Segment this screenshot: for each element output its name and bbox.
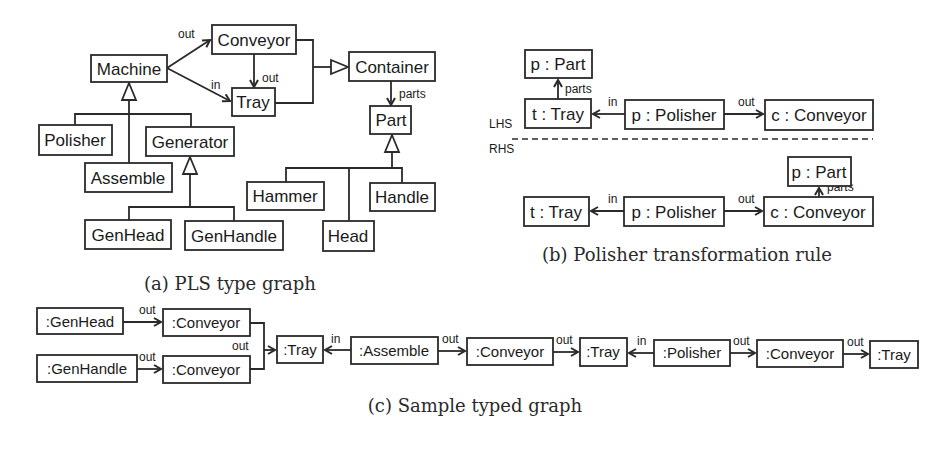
node-tray-instance[interactable]: :Tray [870, 341, 918, 368]
node-label: t : Tray [530, 203, 582, 222]
node-label: Assemble [91, 169, 166, 188]
node-genhandle-instance[interactable]: :GenHandle [37, 355, 137, 382]
inheritance-arrow-part [385, 135, 399, 152]
node-label: :GenHead [46, 313, 114, 330]
inheritance-branch-generator [129, 207, 234, 221]
edge-label-out: out [232, 339, 249, 353]
node-tray[interactable]: Tray [232, 88, 275, 116]
inheritance-branch-part [286, 168, 402, 183]
node-conveyor-instance[interactable]: :Conveyor [163, 356, 250, 383]
panel-c-sample-graph: out out out in out out in out out :GenHe… [37, 303, 918, 416]
edge-label-in: in [211, 78, 220, 92]
edge-label-out: out [738, 95, 755, 109]
edge-label-out: out [178, 27, 195, 41]
node-label: :Tray [586, 343, 620, 360]
lhs-node-part[interactable]: p : Part [525, 50, 592, 78]
panel-b-transformation-rule: parts in out p : Part t : Tray p : Polis… [489, 50, 873, 265]
edge-label-parts: parts [565, 82, 592, 96]
panel-a-type-graph: out in out parts Conveyor Machine Tray C… [39, 25, 435, 294]
lhs-node-tray[interactable]: t : Tray [525, 99, 591, 128]
node-label: c : Conveyor [771, 106, 867, 125]
edge-label-in: in [608, 192, 617, 206]
node-label: Part [375, 111, 406, 130]
node-label: Tray [236, 93, 270, 112]
edge-label-out: out [847, 335, 864, 349]
node-container[interactable]: Container [349, 52, 435, 81]
inheritance-arrow-generator [183, 157, 197, 174]
node-label: p : Polisher [631, 203, 716, 222]
edge-label-out: out [139, 350, 156, 364]
rhs-node-polisher[interactable]: p : Polisher [624, 197, 724, 226]
inheritance-arrow-machine [122, 83, 136, 100]
node-polisher[interactable]: Polisher [39, 125, 112, 155]
node-label: Head [328, 227, 369, 246]
rhs-label: RHS [489, 142, 514, 156]
node-assemble[interactable]: Assemble [85, 163, 172, 192]
caption-a: (a) PLS type graph [144, 273, 316, 294]
node-label: :Conveyor [766, 345, 834, 362]
lhs-node-conveyor[interactable]: c : Conveyor [765, 100, 873, 130]
node-conveyor-instance[interactable]: :Conveyor [467, 338, 553, 365]
node-label: :Conveyor [172, 361, 240, 378]
node-tray-instance[interactable]: :Tray [580, 338, 627, 366]
node-machine[interactable]: Machine [91, 55, 167, 82]
node-assemble-instance[interactable]: :Assemble [351, 337, 438, 364]
edge-label-out: out [556, 333, 573, 347]
node-label: :Conveyor [172, 314, 240, 331]
node-genhandle[interactable]: GenHandle [185, 221, 283, 250]
rhs-node-part[interactable]: p : Part [788, 157, 851, 186]
node-conveyor-instance[interactable]: :Conveyor [163, 309, 250, 336]
node-hammer[interactable]: Hammer [247, 182, 324, 210]
node-conveyor-instance[interactable]: :Conveyor [757, 340, 843, 367]
node-label: :Conveyor [476, 343, 544, 360]
inheritance-arrow-container [331, 60, 348, 74]
node-label: Polisher [44, 131, 106, 150]
edge-label-parts: parts [399, 87, 426, 101]
node-label: :Tray [283, 341, 317, 358]
edge-label-out: out [442, 332, 459, 346]
node-label: Container [355, 58, 429, 77]
caption-c: (c) Sample typed graph [368, 395, 583, 416]
rhs-node-tray[interactable]: t : Tray [524, 197, 589, 226]
node-label: :Polisher [663, 344, 721, 361]
node-label: :GenHandle [47, 360, 127, 377]
edge-label-out: out [733, 334, 750, 348]
edge-machine-conveyor [167, 40, 210, 68]
edge-label-in: in [637, 334, 646, 348]
node-genhead[interactable]: GenHead [85, 220, 171, 249]
node-handle[interactable]: Handle [370, 183, 435, 211]
lhs-node-polisher[interactable]: p : Polisher [625, 100, 724, 129]
node-head[interactable]: Head [323, 221, 374, 251]
node-label: Conveyor [218, 31, 291, 50]
rhs-node-conveyor[interactable]: c : Conveyor [764, 197, 873, 226]
node-label: c : Conveyor [770, 203, 866, 222]
node-label: Generator [152, 133, 229, 152]
lhs-label: LHS [489, 117, 512, 131]
edge-machine-tray [167, 68, 230, 101]
node-polisher-instance[interactable]: :Polisher [654, 340, 730, 366]
node-label: GenHead [92, 226, 165, 245]
node-label: :Tray [877, 346, 911, 363]
node-label: p : Part [792, 163, 847, 182]
diagram-canvas: out in out parts Conveyor Machine Tray C… [0, 0, 950, 449]
node-label: :Assemble [359, 342, 429, 359]
node-tray-instance[interactable]: :Tray [277, 336, 323, 363]
edge-label-out: out [139, 303, 156, 317]
node-label: Handle [375, 188, 429, 207]
edge-label-out: out [738, 192, 755, 206]
node-label: GenHandle [191, 227, 277, 246]
node-generator[interactable]: Generator [146, 127, 234, 156]
node-label: p : Part [531, 55, 586, 74]
conveyors-join [250, 323, 264, 369]
edge-label-in: in [608, 95, 617, 109]
edge-label-in: in [331, 332, 340, 346]
node-label: t : Tray [532, 105, 584, 124]
node-label: p : Polisher [631, 106, 716, 125]
edge-label-out: out [262, 71, 279, 85]
caption-b: (b) Polisher transformation rule [542, 244, 832, 265]
node-part[interactable]: Part [370, 106, 411, 134]
node-genhead-instance[interactable]: :GenHead [37, 308, 123, 334]
node-conveyor[interactable]: Conveyor [212, 25, 296, 54]
node-label: Hammer [252, 187, 318, 206]
node-label: Machine [97, 60, 161, 79]
